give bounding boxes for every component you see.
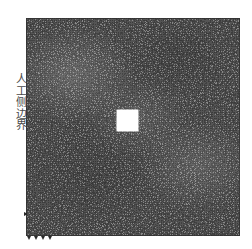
fem-mesh-figure: 人工侧边界 [0,0,252,249]
support-left-roller-icon [24,212,28,216]
support-bottom-2-icon [41,236,45,240]
support-bottom-1-icon [34,236,38,240]
excavation-void [117,110,138,131]
artificial-lateral-boundary-label: 人工侧边界 [10,73,26,131]
support-bottom-3-icon [48,236,52,240]
support-bottom-corner-icon [27,236,31,240]
